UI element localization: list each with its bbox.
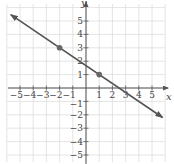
y-tick-label: −5 bbox=[70, 150, 84, 160]
y-tick-label: 1 bbox=[77, 70, 83, 80]
y-tick-label: −4 bbox=[70, 137, 84, 147]
y-tick-label: 3 bbox=[77, 43, 83, 53]
x-axis-label: x bbox=[166, 91, 172, 102]
x-tick-label: 2 bbox=[110, 90, 116, 100]
y-tick-label: 4 bbox=[77, 29, 83, 39]
x-tick-label: 1 bbox=[96, 90, 102, 100]
y-tick-label: −2 bbox=[70, 110, 83, 120]
plotted-point bbox=[57, 45, 63, 51]
y-tick-label: 5 bbox=[77, 16, 83, 26]
x-tick-label: −5 bbox=[10, 90, 24, 100]
plotted-point bbox=[96, 72, 102, 78]
x-tick-label: −4 bbox=[23, 90, 37, 100]
y-axis-label: y bbox=[80, 0, 87, 8]
axes bbox=[8, 2, 168, 164]
x-tick-label: −3 bbox=[36, 90, 50, 100]
coordinate-plane: −5−4−3−2−112345−5−4−3−2−112345 x y bbox=[0, 0, 174, 164]
y-tick-label: −1 bbox=[70, 99, 83, 109]
x-tick-label: 4 bbox=[136, 90, 142, 100]
x-tick-label: −2 bbox=[49, 90, 62, 100]
x-tick-label: 5 bbox=[149, 90, 155, 100]
y-tick-label: −3 bbox=[70, 123, 84, 133]
